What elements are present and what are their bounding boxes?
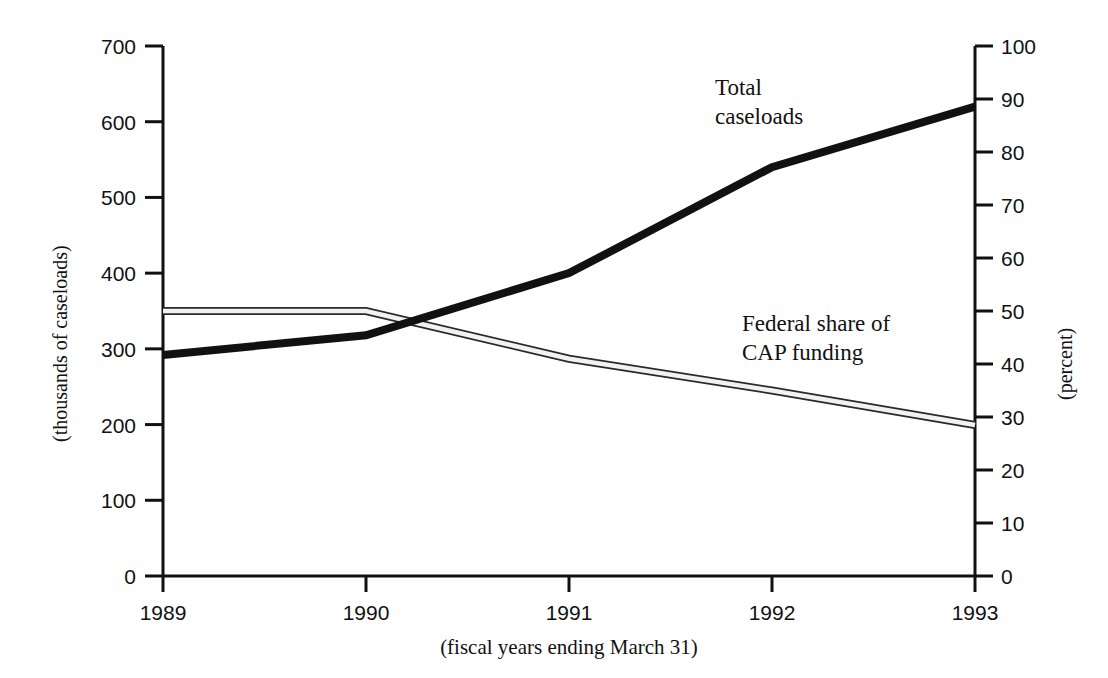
left-tick-label: 100 bbox=[101, 489, 136, 512]
right-tick-label: 80 bbox=[1001, 141, 1024, 164]
annotation-federal-share-line1: Federal share of bbox=[742, 311, 890, 336]
x-tick-label: 1992 bbox=[749, 601, 796, 624]
x-axis-ticks: 19891990199119921993 bbox=[140, 576, 999, 624]
right-tick-label: 30 bbox=[1001, 406, 1024, 429]
left-tick-label: 200 bbox=[101, 414, 136, 437]
x-tick-label: 1991 bbox=[546, 601, 593, 624]
right-tick-label: 100 bbox=[1001, 35, 1036, 58]
line-chart: 0100200300400500600700 01020304050607080… bbox=[0, 0, 1108, 678]
annotation-total-caseloads-line2: caseloads bbox=[715, 104, 803, 129]
left-tick-label: 0 bbox=[124, 565, 136, 588]
right-tick-label: 0 bbox=[1001, 565, 1013, 588]
annotation-total-caseloads-line1: Total bbox=[715, 75, 762, 100]
left-tick-label: 700 bbox=[101, 35, 136, 58]
right-tick-label: 10 bbox=[1001, 512, 1024, 535]
x-tick-label: 1993 bbox=[952, 601, 999, 624]
left-tick-label: 300 bbox=[101, 338, 136, 361]
left-axis-ticks: 0100200300400500600700 bbox=[101, 35, 163, 588]
right-tick-label: 90 bbox=[1001, 88, 1024, 111]
right-tick-label: 70 bbox=[1001, 194, 1024, 217]
chart-figure: 0100200300400500600700 01020304050607080… bbox=[0, 0, 1108, 678]
annotation-federal-share-line2: CAP funding bbox=[742, 340, 864, 365]
right-tick-label: 40 bbox=[1001, 353, 1024, 376]
right-tick-label: 60 bbox=[1001, 247, 1024, 270]
right-axis-title: (percent) bbox=[1054, 328, 1077, 400]
x-axis-title: (fiscal years ending March 31) bbox=[440, 635, 698, 659]
right-tick-label: 20 bbox=[1001, 459, 1024, 482]
left-tick-label: 400 bbox=[101, 262, 136, 285]
left-axis-title: (thousands of caseloads) bbox=[49, 245, 72, 442]
left-tick-label: 600 bbox=[101, 111, 136, 134]
x-tick-label: 1989 bbox=[140, 601, 187, 624]
x-tick-label: 1990 bbox=[343, 601, 390, 624]
right-axis-ticks: 0102030405060708090100 bbox=[975, 35, 1036, 588]
left-tick-label: 500 bbox=[101, 186, 136, 209]
right-tick-label: 50 bbox=[1001, 300, 1024, 323]
